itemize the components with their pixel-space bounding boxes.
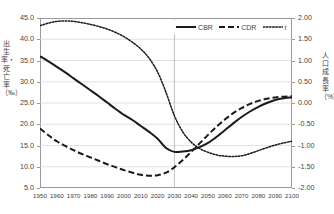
y-axis-right-tick: -1.50: [298, 162, 328, 171]
legend-label: r: [285, 24, 287, 31]
series-line-r: [40, 21, 292, 157]
y-axis-right-tick: -2.00: [298, 183, 328, 192]
legend-label: CDR: [241, 24, 256, 31]
y-axis-right-tick: 2.00: [298, 13, 328, 22]
y-axis-right-tick-mark: [292, 188, 295, 189]
y-axis-left-tick: 40.0: [8, 34, 34, 43]
left-axis-title: 出生率・死亡率（‰）: [1, 40, 12, 97]
y-axis-left-tick: 30.0: [8, 77, 34, 86]
y-axis-left-tick: 15.0: [8, 141, 34, 150]
series-lines: [40, 21, 292, 176]
y-axis-left-tick: 10.0: [8, 162, 34, 171]
legend: CBRCDRr: [173, 20, 290, 34]
legend-label: CBR: [198, 24, 213, 31]
legend-swatch-dashed-icon: [219, 23, 239, 31]
y-axis-right-tick-mark: [292, 82, 295, 83]
y-axis-right-tick-mark: [292, 18, 295, 19]
gridlines: [40, 18, 292, 188]
y-axis-right-tick-mark: [292, 39, 295, 40]
legend-item-cdr: CDR: [219, 23, 256, 31]
y-axis-left-tick: 45.0: [8, 13, 34, 22]
legend-item-r: r: [263, 23, 287, 31]
y-axis-right-tick-mark: [292, 146, 295, 147]
y-axis-left-tick: 25.0: [8, 98, 34, 107]
y-axis-right-tick: 0.00: [298, 98, 328, 107]
y-axis-left-tick: 35.0: [8, 56, 34, 65]
legend-item-cbr: CBR: [176, 23, 213, 31]
population-rates-chart: 出生率・死亡率（‰） 人口成長率（%） 45.040.035.030.025.0…: [0, 0, 334, 214]
y-axis-left-tick: 5.0: [8, 183, 34, 192]
legend-swatch-solid-icon: [176, 23, 196, 31]
y-axis-right-tick-mark: [292, 103, 295, 104]
y-axis-right-tick: 1.00: [298, 56, 328, 65]
y-axis-left-tick: 20.0: [8, 119, 34, 128]
y-axis-right-tick: -1.00: [298, 141, 328, 150]
legend-swatch-dotted-icon: [263, 23, 283, 31]
plot-canvas: [40, 18, 292, 188]
y-axis-right-tick: 0.50: [298, 77, 328, 86]
x-axis-tick: 2100: [280, 192, 304, 199]
y-axis-right-tick: 1.50: [298, 34, 328, 43]
y-axis-right-tick-mark: [292, 167, 295, 168]
y-axis-left-tick-mark: [37, 188, 40, 189]
y-axis-right-tick: -0.50: [298, 119, 328, 128]
y-axis-right-tick-mark: [292, 124, 295, 125]
series-line-cbr: [40, 56, 292, 152]
y-axis-right-tick-mark: [292, 61, 295, 62]
